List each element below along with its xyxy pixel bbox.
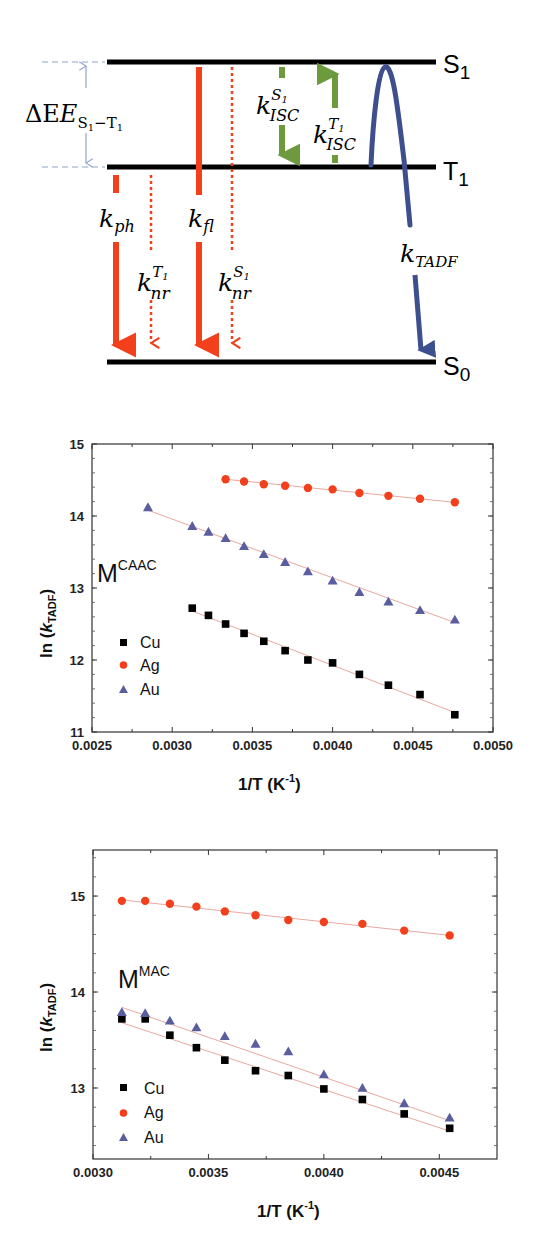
data-point-ag: [284, 916, 292, 924]
y-axis-label: ln (kTADF): [37, 983, 58, 1052]
data-point-au: [165, 1016, 175, 1025]
data-point-cu: [329, 659, 337, 667]
data-point-ag: [384, 492, 392, 500]
y-tick-label: 15: [70, 437, 84, 452]
k-ph-label: kph: [99, 204, 135, 236]
x-tick-label: 0.0045: [393, 738, 433, 753]
data-point-ag: [355, 489, 363, 497]
level-s0-label: S0: [443, 352, 470, 385]
data-point-ag: [221, 475, 229, 483]
data-point-ag: [445, 931, 453, 939]
x-tick-label: 0.0035: [189, 1165, 229, 1180]
data-point-ag: [240, 477, 248, 485]
data-point-au: [239, 541, 249, 550]
k-isc-t1-label: kT1ISC: [313, 115, 356, 154]
legend-ag: Ag: [144, 1104, 164, 1121]
data-point-ag: [358, 920, 366, 928]
k-nr-t1-label: kT1nr: [137, 263, 170, 303]
data-point-au: [399, 1098, 409, 1107]
data-point-cu: [281, 647, 289, 655]
data-point-cu: [359, 1096, 367, 1104]
data-point-au: [143, 502, 153, 511]
level-t1-label: T1: [443, 157, 469, 190]
y-tick-label: 15: [71, 889, 85, 904]
k-isc-s1-label: kS1ISC: [256, 86, 299, 125]
y-tick-label: 14: [70, 509, 85, 524]
x-axis-label: 1/T (K-1): [238, 772, 301, 794]
data-point-au: [220, 1031, 230, 1040]
data-point-cu: [252, 1067, 260, 1075]
chart-mac: 0.00300.00350.00400.0045131415 MMAC Cu A…: [0, 795, 542, 1245]
legend: Cu Ag Au: [119, 634, 160, 698]
data-point-cu: [285, 1072, 293, 1080]
x-tick-label: 0.0030: [152, 738, 192, 753]
legend-cu: Cu: [144, 1080, 164, 1097]
data-point-cu: [222, 620, 230, 628]
k-tadf-label: kTADF: [400, 239, 458, 271]
tadf-curve: [371, 67, 410, 225]
legend-ag: Ag: [140, 657, 160, 674]
series-tag: MMAC: [118, 963, 170, 993]
data-point-cu: [304, 656, 312, 664]
data-point-ag: [251, 911, 259, 919]
data-point-ag: [118, 897, 126, 905]
data-point-cu: [166, 1031, 174, 1039]
x-tick-label: 0.0025: [72, 738, 112, 753]
series-tag: MCAAC: [97, 557, 157, 587]
data-point-ag: [166, 900, 174, 908]
data-point-au: [191, 1023, 201, 1032]
data-point-au: [415, 605, 425, 614]
data-point-ag: [451, 498, 459, 506]
x-tick-label: 0.0030: [73, 1165, 113, 1180]
y-tick-label: 13: [71, 1081, 85, 1096]
data-point-cu: [188, 604, 196, 612]
tadf-arrow-icon: [415, 275, 421, 350]
legend-au: Au: [140, 681, 160, 698]
fit-line-cu: [192, 611, 455, 713]
x-tick-label: 0.0035: [233, 738, 273, 753]
x-axis-label: 1/T (K-1): [257, 1199, 320, 1221]
y-axis-label: ln (kTADF): [37, 589, 58, 658]
data-point-ag: [221, 907, 229, 915]
legend-cu: Cu: [140, 634, 160, 651]
data-point-au: [383, 597, 393, 606]
energy-gap-label: ΔEES1−T1: [25, 100, 123, 133]
x-tick-label: 0.0040: [304, 1165, 344, 1180]
data-point-cu: [240, 630, 248, 638]
data-point-cu: [205, 612, 213, 620]
x-tick-label: 0.0045: [419, 1165, 459, 1180]
data-point-au: [283, 1047, 293, 1056]
data-point-ag: [281, 482, 289, 490]
data-point-cu: [193, 1044, 201, 1052]
data-point-cu: [385, 681, 393, 689]
data-point-au: [251, 1039, 261, 1048]
data-point-au: [328, 576, 338, 585]
k-nr-s1-label: kS1nr: [218, 263, 252, 303]
data-point-ag: [192, 902, 200, 910]
data-point-ag: [400, 926, 408, 934]
data-point-au: [319, 1070, 329, 1079]
data-point-ag: [304, 484, 312, 492]
data-point-ag: [320, 918, 328, 926]
data-point-cu: [446, 1124, 454, 1132]
data-point-au: [445, 1113, 455, 1122]
data-point-ag: [328, 485, 336, 493]
data-point-ag: [416, 495, 424, 503]
data-point-cu: [400, 1110, 408, 1118]
data-point-au: [450, 615, 460, 624]
data-point-cu: [451, 711, 459, 719]
data-point-cu: [221, 1056, 229, 1064]
x-tick-label: 0.0050: [473, 738, 513, 753]
data-point-cu: [416, 691, 424, 699]
data-point-cu: [320, 1085, 328, 1093]
legend: Cu Ag Au: [119, 1080, 164, 1146]
level-s1-label: S1: [443, 50, 470, 83]
data-point-cu: [260, 637, 268, 645]
y-tick-label: 13: [70, 581, 84, 596]
y-tick-label: 14: [71, 985, 86, 1000]
data-point-au: [357, 1083, 367, 1092]
chart-caac: 0.00250.00300.00350.00400.00450.00501112…: [0, 395, 542, 795]
y-tick-label: 12: [70, 653, 84, 668]
data-point-au: [140, 1008, 150, 1017]
jablonski-diagram: ΔEES1−T1 S1 T1 S0 kph kT1nr kfl kS1nr kS…: [0, 0, 542, 395]
